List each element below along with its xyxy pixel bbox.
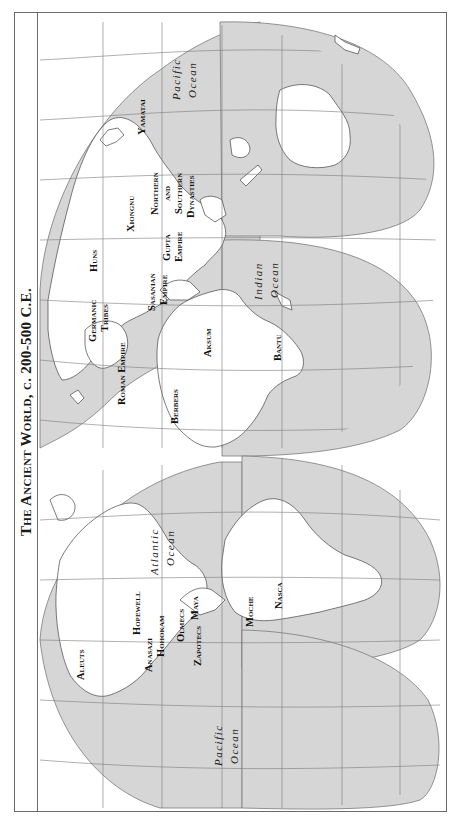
label-zapotecs: Zapotecs <box>192 626 203 666</box>
label-gupta: Gupta <box>161 234 172 261</box>
world-map: Pacific Ocean Indian Ocean Atlantic Ocea… <box>0 0 460 827</box>
ocean-label-indian-2: Ocean <box>268 262 280 298</box>
ocean-label-atlantic: Atlantic <box>148 528 160 576</box>
ocean-label-pacific-west-2: Ocean <box>228 728 240 764</box>
label-aleuts: Aleuts <box>75 649 86 680</box>
label-maya: Maya <box>189 596 200 620</box>
label-nasca: Nasca <box>273 582 284 609</box>
label-sasanian: Sasanian <box>146 273 157 311</box>
ocean-label-pacific-east: Pacific <box>170 58 182 101</box>
label-roman-empire: Roman Empire <box>116 342 127 405</box>
label-tribes: Tribes <box>99 304 110 332</box>
label-gupta-empire: Empire <box>173 231 184 262</box>
label-germanic: Germanic <box>87 300 98 342</box>
label-anasazi: Anasazi <box>143 638 154 672</box>
ocean-label-pacific-west: Pacific <box>212 724 224 767</box>
label-moche: Moche <box>244 596 255 627</box>
land-greenland <box>50 495 75 521</box>
label-berbers: Berbers <box>169 389 180 424</box>
label-southern: Southern <box>173 173 184 214</box>
label-yamatai: Yamatai <box>136 99 147 135</box>
ocean-label-pacific-east-2: Ocean <box>186 62 198 98</box>
label-huns: Huns <box>88 250 99 272</box>
label-bantu: Bantu <box>272 334 283 361</box>
ocean-label-indian: Indian <box>252 262 264 301</box>
label-sasanian-empire: Empire <box>158 274 169 305</box>
ocean-label-atlantic-2: Ocean <box>164 530 176 566</box>
label-olmecs: Olmecs <box>175 609 186 642</box>
label-and: and <box>161 186 172 201</box>
label-hopewell: Hopewell <box>131 591 142 635</box>
ocean-pacific-south-lobe <box>242 630 439 809</box>
label-aksum: Aksum <box>202 328 213 357</box>
label-northern: Northern <box>149 172 160 215</box>
label-xiongnu: Xiongnu <box>125 196 136 232</box>
label-dynasties: Dynasties <box>185 175 196 218</box>
label-hohokam: Hohokam <box>155 615 166 657</box>
